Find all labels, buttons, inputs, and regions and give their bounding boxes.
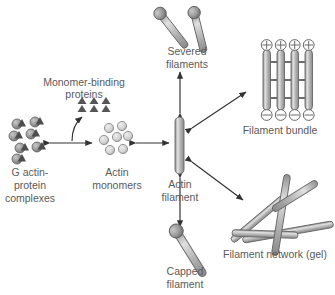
plus-end-symbol xyxy=(303,40,314,51)
minus-end-symbol xyxy=(303,110,314,121)
g-actin-complex xyxy=(15,143,29,153)
arrow-filament-network xyxy=(192,162,243,200)
label-capped-filament-line1: Capped xyxy=(167,265,204,277)
arrow-filament-bundle xyxy=(192,92,246,128)
label-actin-monomers-line1: Actin xyxy=(105,166,129,178)
label-actin-filament-line2: filament xyxy=(162,191,199,203)
actin-monomer xyxy=(123,131,132,140)
plus-end-symbol xyxy=(275,40,286,51)
label-monomer-binding-proteins-line2: proteins xyxy=(65,88,102,100)
actin-monomer xyxy=(118,144,127,153)
plus-end-symbol xyxy=(289,40,300,51)
minus-end-symbol xyxy=(289,110,300,121)
plus-end-symbol xyxy=(261,40,272,51)
network-rod xyxy=(271,174,290,256)
actin-monomer xyxy=(105,145,114,154)
actin-monomer xyxy=(104,123,113,132)
g-actin-complex xyxy=(9,131,23,141)
label-capped-filament-line2: filament xyxy=(167,278,204,290)
g-actin-complex xyxy=(26,129,40,139)
filament-network xyxy=(230,174,334,256)
diagram-canvas: Monomer-binding proteins G actin- protei… xyxy=(0,0,335,295)
network-rod xyxy=(271,179,319,212)
label-filament-bundle: Filament bundle xyxy=(243,124,318,136)
label-filament-network: Filament network (gel) xyxy=(223,248,327,260)
label-actin-monomers-line2: monomers xyxy=(92,179,142,191)
label-severed-filaments-line1: Severed xyxy=(167,45,206,57)
actin-monomers-cluster xyxy=(99,121,132,154)
protein-triangle xyxy=(102,97,111,104)
actin-monomer xyxy=(117,121,126,130)
bundle-minus-ends xyxy=(261,110,314,121)
protein-triangle xyxy=(78,105,87,112)
g-actin-complex xyxy=(30,117,44,127)
g-actin-complex xyxy=(12,154,26,164)
g-actin-complex xyxy=(12,119,26,129)
filament-bundle xyxy=(261,40,314,121)
protein-triangle xyxy=(102,105,111,112)
label-severed-filaments-line2: filaments xyxy=(166,58,208,70)
label-actin-filament-line1: Actin xyxy=(168,178,192,190)
label-g-actin-line2: protein xyxy=(14,179,46,191)
g-actin-complex xyxy=(32,142,46,152)
label-g-actin-line3: complexes xyxy=(5,192,55,204)
bundle-plus-ends xyxy=(261,40,314,51)
actin-monomer xyxy=(112,132,121,141)
label-monomer-binding-proteins-line1: Monomer-binding xyxy=(43,76,125,88)
actin-filament xyxy=(175,117,184,174)
minus-end-symbol xyxy=(261,110,272,121)
g-actin-protein-complexes-cluster xyxy=(9,117,46,164)
protein-triangle xyxy=(90,105,99,112)
minus-end-symbol xyxy=(275,110,286,121)
arrow-monomer-binding-curve xyxy=(72,117,82,141)
actin-dynamics-diagram: Monomer-binding proteins G actin- protei… xyxy=(0,0,335,295)
actin-monomer xyxy=(99,135,108,144)
label-g-actin-line1: G actin- xyxy=(12,166,49,178)
